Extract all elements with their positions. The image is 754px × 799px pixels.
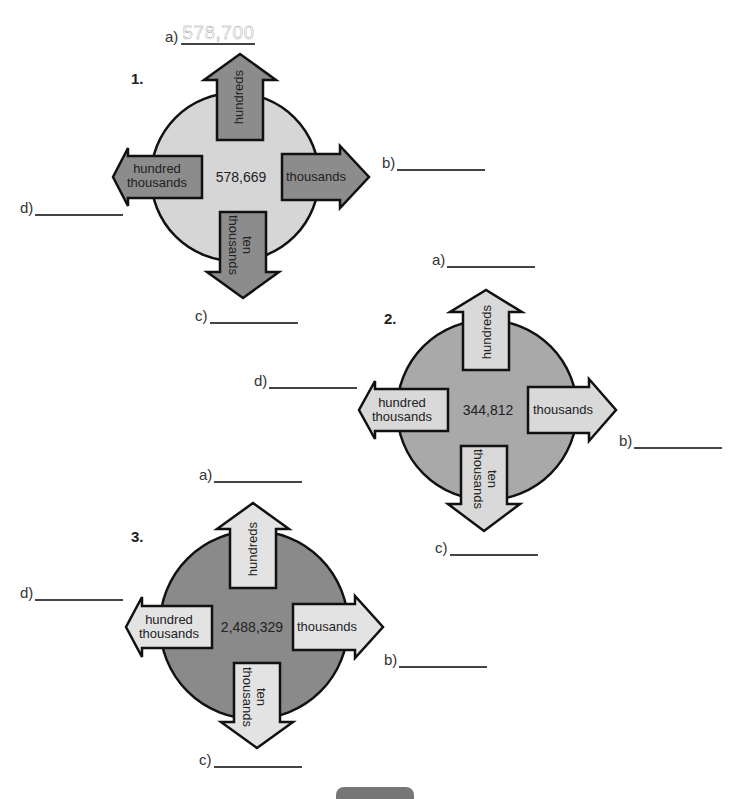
answer-3b[interactable]: b) xyxy=(384,650,487,668)
arrow-label-left-line1: hundred xyxy=(139,613,199,627)
arrow-label-left: hundred thousands xyxy=(139,613,199,641)
center-number: 2,488,329 xyxy=(221,619,283,635)
arrow-label-left-line2: thousands xyxy=(139,627,199,641)
arrow-label-down-line1: ten xyxy=(254,667,268,727)
arrow-label-down-line2: thousands xyxy=(240,667,254,727)
answer-blank[interactable] xyxy=(35,583,123,601)
arrow-label-right: thousands xyxy=(297,620,357,634)
answer-label: c) xyxy=(199,751,212,768)
answer-label: b) xyxy=(384,651,397,668)
answer-3d[interactable]: d) xyxy=(20,583,123,601)
answer-blank[interactable] xyxy=(214,750,302,768)
answer-label: d) xyxy=(20,584,33,601)
answer-3c[interactable]: c) xyxy=(199,750,302,768)
answer-blank[interactable] xyxy=(399,650,487,668)
arrow-label-up: hundreds xyxy=(246,522,260,576)
arrow-label-down: ten thousands xyxy=(240,667,268,727)
page-footer-tab xyxy=(336,787,414,799)
